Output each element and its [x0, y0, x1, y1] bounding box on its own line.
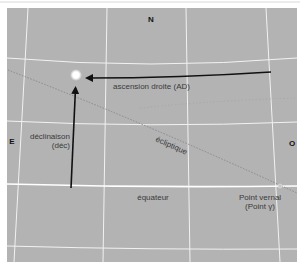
cardinal-east: E — [9, 137, 15, 146]
vernal-point-label-line1: Point vernal — [239, 193, 281, 202]
celestial-coordinates-diagram: N E O ascension droite (AD) déclinaison … — [0, 0, 305, 274]
cardinal-north: N — [148, 15, 154, 24]
declination-label-line2: (déc) — [52, 141, 71, 150]
equator-label: équateur — [137, 193, 169, 202]
vernal-point-marker — [278, 184, 282, 188]
cardinal-west: O — [289, 139, 295, 148]
right-ascension-label: ascension droite (AD) — [113, 82, 190, 91]
star-core — [73, 72, 79, 78]
vernal-point-label-line2: (Point γ) — [245, 202, 275, 211]
declination-label-line1: déclinaison — [30, 132, 70, 141]
